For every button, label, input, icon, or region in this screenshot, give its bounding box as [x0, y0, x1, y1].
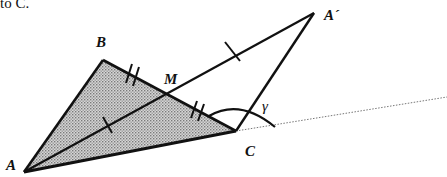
label-b: B — [96, 35, 106, 50]
label-a: A — [6, 158, 16, 173]
label-a-prime: A´ — [324, 8, 339, 23]
label-gamma: γ — [262, 99, 268, 114]
diagram: to C. B M A´ A C γ — [0, 0, 447, 177]
caption-fragment: to C. — [0, 0, 29, 11]
segment-a-aprime — [24, 13, 314, 172]
segment-c-aprime — [236, 13, 314, 131]
label-m: M — [164, 72, 177, 87]
label-c: C — [245, 144, 255, 159]
triangle-figure — [0, 0, 447, 177]
